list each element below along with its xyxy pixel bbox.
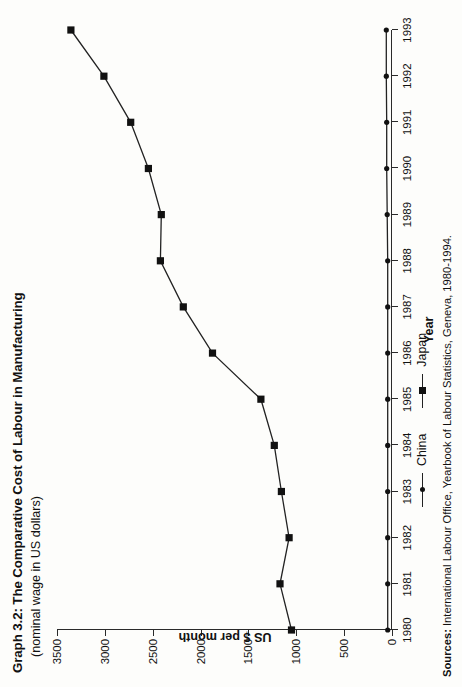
x-tick-label: 1982 bbox=[401, 525, 413, 550]
data-point-china-1982 bbox=[385, 535, 390, 540]
x-tick-label: 1983 bbox=[401, 479, 413, 504]
data-series-layer bbox=[57, 30, 392, 630]
x-tick-label: 1991 bbox=[401, 110, 413, 135]
sources-label: Sources: bbox=[441, 629, 453, 677]
data-point-china-1988 bbox=[385, 258, 390, 263]
x-tick-label: 1980 bbox=[401, 617, 413, 642]
data-point-japan-1989 bbox=[158, 211, 165, 218]
legend-label-japan: Japan bbox=[415, 333, 429, 367]
x-tick-label: 1992 bbox=[401, 63, 413, 88]
rotated-figure-wrapper: Graph 3.2: The Comparative Cost of Labou… bbox=[0, 0, 462, 687]
data-point-japan-1991 bbox=[127, 119, 134, 126]
x-tick bbox=[392, 398, 398, 399]
data-point-japan-1987 bbox=[180, 303, 187, 310]
data-point-japan-1988 bbox=[157, 257, 164, 264]
x-tick bbox=[392, 491, 398, 492]
x-tick bbox=[392, 260, 398, 261]
y-tick-label: 1000 bbox=[290, 639, 302, 664]
x-tick-label: 1990 bbox=[401, 156, 413, 181]
legend-item-japan: Japan bbox=[415, 333, 429, 408]
x-tick bbox=[392, 537, 398, 538]
y-tick bbox=[153, 630, 154, 636]
data-point-china-1985 bbox=[385, 397, 390, 402]
x-tick-label: 1987 bbox=[401, 294, 413, 319]
data-point-china-1993 bbox=[384, 27, 389, 32]
x-tick-label: 1993 bbox=[401, 17, 413, 42]
x-tick-label: 1985 bbox=[401, 387, 413, 412]
y-tick bbox=[296, 630, 297, 636]
x-tick bbox=[392, 121, 398, 122]
y-axis-title: US $ per month bbox=[178, 630, 271, 644]
data-point-china-1980 bbox=[385, 627, 390, 632]
x-tick-label: 1986 bbox=[401, 340, 413, 365]
y-tick-label: 500 bbox=[338, 639, 350, 658]
y-tick-label: 2000 bbox=[195, 639, 207, 664]
circle-marker-icon bbox=[420, 488, 425, 493]
chart-legend: China Japan bbox=[415, 333, 429, 507]
chart-title: Graph 3.2: The Comparative Cost of Labou… bbox=[10, 292, 25, 673]
x-tick bbox=[392, 352, 398, 353]
data-point-china-1984 bbox=[385, 443, 390, 448]
data-point-japan-1985 bbox=[257, 396, 264, 403]
data-point-japan-1981 bbox=[276, 580, 283, 587]
y-tick-label: 3000 bbox=[99, 639, 111, 664]
x-tick bbox=[392, 629, 398, 630]
x-tick-label: 1984 bbox=[401, 433, 413, 458]
x-tick-label: 1988 bbox=[401, 248, 413, 273]
square-marker-icon bbox=[419, 387, 426, 394]
series-line-japan bbox=[71, 30, 292, 630]
x-tick-label: 1981 bbox=[401, 571, 413, 596]
data-point-china-1983 bbox=[385, 489, 390, 494]
x-tick bbox=[392, 306, 398, 307]
data-point-china-1986 bbox=[385, 351, 390, 356]
x-tick bbox=[392, 75, 398, 76]
data-point-china-1987 bbox=[385, 304, 390, 309]
china-line-swatch bbox=[422, 473, 423, 507]
y-tick bbox=[57, 630, 58, 636]
sources-text: International Labour Office, Yearbook of… bbox=[441, 235, 453, 629]
data-point-china-1991 bbox=[384, 120, 389, 125]
y-tick-label: 2500 bbox=[147, 639, 159, 664]
legend-item-china: China bbox=[415, 434, 429, 507]
data-point-japan-1983 bbox=[278, 488, 285, 495]
y-tick bbox=[105, 630, 106, 636]
x-tick bbox=[392, 214, 398, 215]
data-point-japan-1992 bbox=[100, 73, 107, 80]
data-point-china-1992 bbox=[384, 74, 389, 79]
y-tick-label: 1500 bbox=[242, 639, 254, 664]
x-tick-label: 1989 bbox=[401, 202, 413, 227]
x-tick bbox=[392, 444, 398, 445]
chart-subtitle: (nominal wage in US dollars) bbox=[29, 496, 43, 657]
japan-line-swatch bbox=[422, 374, 423, 408]
data-point-japan-1980 bbox=[288, 626, 295, 633]
y-tick-label: 3500 bbox=[51, 639, 63, 664]
x-tick bbox=[392, 583, 398, 584]
plot-area: US $ per month Year 05001000150020002500… bbox=[57, 30, 392, 630]
y-tick bbox=[344, 630, 345, 636]
sources-note: Sources: International Labour Office, Ye… bbox=[441, 235, 453, 677]
y-tick bbox=[392, 630, 393, 636]
data-point-china-1989 bbox=[385, 212, 390, 217]
x-tick bbox=[392, 29, 398, 30]
data-point-japan-1982 bbox=[286, 534, 293, 541]
data-point-japan-1986 bbox=[209, 350, 216, 357]
data-point-china-1981 bbox=[385, 581, 390, 586]
data-point-japan-1984 bbox=[271, 442, 278, 449]
data-point-japan-1990 bbox=[145, 165, 152, 172]
legend-label-china: China bbox=[415, 434, 429, 466]
chart-figure: Graph 3.2: The Comparative Cost of Labou… bbox=[0, 0, 462, 687]
x-tick bbox=[392, 167, 398, 168]
data-point-china-1990 bbox=[384, 166, 389, 171]
data-point-japan-1993 bbox=[67, 26, 74, 33]
y-tick-label: 0 bbox=[386, 639, 398, 645]
